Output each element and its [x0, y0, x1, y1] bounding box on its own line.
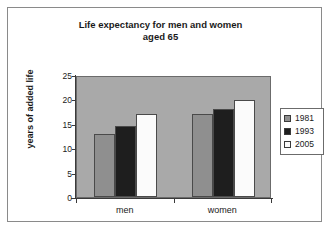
legend-swatch-icon	[284, 141, 291, 148]
bar-women-1993	[213, 109, 234, 197]
chart-legend: 198119932005	[280, 108, 324, 155]
y-tick-label: 10	[50, 145, 72, 153]
chart-title-line-2: aged 65	[38, 31, 283, 43]
y-axis-line	[75, 75, 76, 199]
figure-border: Life expectancy for men and women aged 6…	[7, 7, 322, 222]
plot-area	[76, 76, 271, 198]
x-axis-line	[71, 198, 273, 199]
y-tick-label: 0	[50, 194, 72, 202]
y-tick-mark	[72, 125, 76, 126]
x-tick-mark	[174, 198, 175, 203]
legend-swatch-icon	[284, 115, 291, 122]
y-tick-label: 5	[50, 170, 72, 178]
x-category-label-women: women	[174, 205, 272, 215]
y-tick-label: 25	[50, 72, 72, 80]
x-category-label-men: men	[76, 205, 174, 215]
y-tick-label: 20	[50, 96, 72, 104]
bar-men-1993	[115, 126, 136, 197]
y-tick-label: 15	[50, 121, 72, 129]
legend-label: 1981	[295, 114, 314, 123]
y-axis-tick-labels: 0510152025	[46, 8, 72, 233]
chart-title: Life expectancy for men and women aged 6…	[38, 19, 283, 43]
legend-label: 2005	[295, 140, 314, 149]
y-tick-mark	[72, 100, 76, 101]
y-axis-title: years of added life	[25, 44, 35, 174]
y-tick-mark	[72, 76, 76, 77]
x-tick-mark	[76, 198, 77, 203]
bar-men-2005	[136, 114, 157, 197]
legend-item-1993: 1993	[284, 125, 320, 138]
bar-women-1981	[192, 114, 213, 197]
x-tick-mark	[271, 198, 272, 203]
legend-item-1981: 1981	[284, 112, 320, 125]
bar-men-1981	[94, 134, 115, 197]
y-tick-mark	[72, 149, 76, 150]
bar-women-2005	[234, 100, 255, 197]
chart-title-line-1: Life expectancy for men and women	[38, 19, 283, 31]
y-tick-mark	[72, 174, 76, 175]
legend-label: 1993	[295, 127, 314, 136]
bars-layer	[77, 77, 270, 197]
legend-swatch-icon	[284, 128, 291, 135]
chart-figure: Life expectancy for men and women aged 6…	[0, 0, 334, 233]
legend-item-2005: 2005	[284, 138, 320, 151]
